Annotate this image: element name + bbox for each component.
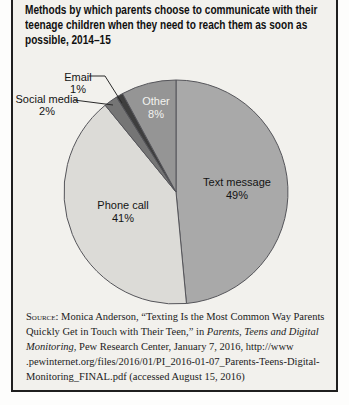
pie-label-text-message: Text message 49%: [203, 176, 271, 202]
pie-label-phone-call-pct: 41%: [112, 212, 134, 224]
source-note: Source: Monica Anderson, “Texting Is the…: [26, 309, 334, 384]
callout-label-email-name: Email: [64, 71, 92, 83]
social-media-leader-line: [74, 100, 113, 105]
pie-label-phone-call-name: Phone call: [97, 199, 148, 211]
figure-canvas: Methods by which parents choose to commu…: [11, 0, 338, 392]
pie-label-phone-call: Phone call 41%: [97, 199, 148, 225]
source-label: Source:: [26, 311, 58, 322]
figure-page: Methods by which parents choose to commu…: [0, 0, 349, 405]
pie-label-other-name: Other: [142, 95, 170, 107]
callout-label-social-media: Social media 2%: [16, 93, 79, 117]
callout-label-email-pct: 1%: [70, 83, 86, 95]
pie-label-other: Other 8%: [142, 95, 170, 121]
callout-label-email: Email 1%: [64, 71, 92, 95]
pie-label-text-message-pct: 49%: [226, 189, 248, 201]
figure-frame: Methods by which parents choose to commu…: [11, 0, 338, 392]
callout-label-social-media-pct: 2%: [39, 105, 55, 117]
pie-label-other-pct: 8%: [148, 108, 164, 120]
pie-label-text-message-name: Text message: [203, 176, 271, 188]
